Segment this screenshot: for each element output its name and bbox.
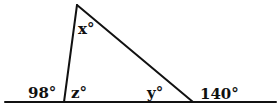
exterior-angle-left-label: 98° bbox=[28, 84, 56, 102]
angle-x-label: x° bbox=[78, 20, 94, 38]
angle-z-label: z° bbox=[71, 84, 87, 102]
angle-y-label: y° bbox=[146, 84, 163, 102]
triangle-diagram: x° z° y° 98° 140° bbox=[0, 0, 278, 109]
exterior-angle-right-label: 140° bbox=[200, 85, 239, 103]
